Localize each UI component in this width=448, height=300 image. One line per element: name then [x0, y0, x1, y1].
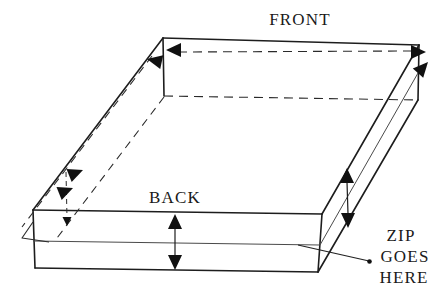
zip-note: ZIP GOES HERE — [379, 226, 429, 287]
zip-note-line-2: GOES — [380, 247, 429, 266]
side-face-up-arrowhead-icon — [340, 168, 354, 183]
diagram-canvas: FRONT BACK ZIP GOES HERE — [0, 0, 448, 300]
back-face-up-arrowhead-icon — [168, 214, 182, 229]
zip-corner-flap — [22, 222, 49, 242]
zip-leader — [298, 245, 372, 264]
zip-leader-dot-icon — [367, 259, 372, 264]
top-front-edge — [163, 38, 419, 45]
box-outline — [33, 38, 419, 272]
hidden-bottom-left-edge — [57, 97, 164, 238]
arrowheads — [57, 43, 429, 270]
zip-line-back-face — [33, 241, 320, 245]
back-label: BACK — [149, 188, 201, 207]
back-face-down-arrowhead-icon — [168, 255, 182, 270]
back-face-bottom-edge — [35, 268, 318, 272]
zip-note-line-1: ZIP — [386, 226, 415, 245]
zip-note-line-3: HERE — [379, 268, 428, 287]
side-face-width-arrow-line — [347, 182, 348, 214]
hidden-bottom-front-edge — [164, 96, 418, 100]
front-edge-dimension-line — [178, 51, 412, 52]
side-face-down-arrowhead-icon — [341, 213, 355, 228]
zip-path-left-dashed-line — [22, 56, 152, 227]
front-label: FRONT — [269, 10, 331, 29]
left-corner-upper-arrowhead-icon — [67, 169, 84, 182]
left-corner-top-arrowhead-icon — [147, 55, 163, 69]
left-corner-lower-arrowhead-icon — [57, 187, 74, 200]
back-face-left-edge — [33, 210, 35, 268]
zip-lines — [22, 73, 418, 245]
right-corner-top-arrowhead-icon — [413, 62, 428, 78]
back-left-corner-edge — [163, 38, 164, 96]
front-edge-left-arrowhead-icon — [166, 43, 181, 57]
zip-leader-line — [298, 245, 369, 261]
top-right-edge — [322, 45, 419, 214]
